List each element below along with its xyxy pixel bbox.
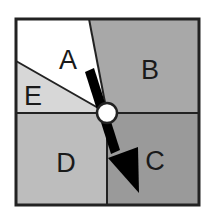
center-circle-icon bbox=[97, 103, 117, 123]
region-label-b: B bbox=[141, 55, 159, 85]
region-label-a: A bbox=[59, 45, 77, 75]
region-label-c: C bbox=[145, 146, 165, 176]
region-label-d: D bbox=[56, 148, 76, 178]
region-diagram: ABCDE bbox=[0, 0, 206, 220]
region-label-e: E bbox=[24, 81, 42, 111]
center-point bbox=[97, 103, 117, 123]
